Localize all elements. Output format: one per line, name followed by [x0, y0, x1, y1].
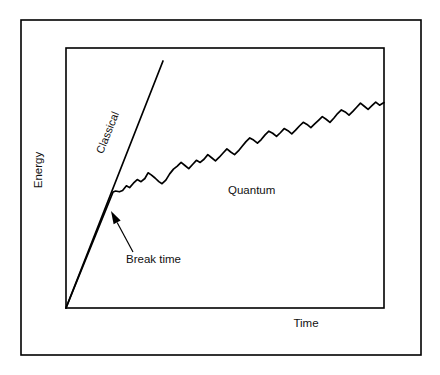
plot-frame — [66, 48, 384, 308]
outer-border — [21, 20, 421, 355]
break-time-arrow-head — [111, 211, 121, 224]
quantum-series-line — [66, 102, 384, 308]
chart-canvas: Energy Time Classical Quantum Break time — [0, 0, 440, 375]
classical-series-label: Classical — [93, 110, 121, 155]
quantum-series-label: Quantum — [228, 184, 275, 196]
classical-series-line — [66, 61, 163, 308]
break-time-label: Break time — [126, 253, 181, 265]
figure-root: Energy Time Classical Quantum Break time — [0, 0, 440, 375]
x-axis-label: Time — [293, 317, 318, 329]
y-axis-label: Energy — [32, 152, 44, 189]
break-time-arrow-shaft — [117, 222, 133, 252]
